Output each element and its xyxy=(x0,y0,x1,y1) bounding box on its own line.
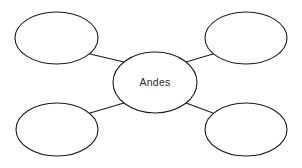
node-ellipse-top-right[interactable] xyxy=(205,12,287,64)
outer-node-bottom-left[interactable] xyxy=(16,103,98,156)
node-ellipse-top-left[interactable] xyxy=(15,12,98,64)
outer-node-bottom-right[interactable] xyxy=(205,103,287,156)
node-ellipse-bottom-left[interactable] xyxy=(16,103,98,156)
outer-node-top-right[interactable] xyxy=(205,12,287,64)
connector-center-to-top-left xyxy=(90,54,124,62)
node-label-center: Andes xyxy=(140,76,171,88)
connector-center-to-top-right xyxy=(186,54,213,62)
connector-center-to-bottom-right xyxy=(186,103,213,113)
center-node[interactable]: Andes xyxy=(113,52,197,113)
connector-center-to-bottom-left xyxy=(90,103,124,113)
concept-map-diagram: Andes xyxy=(0,0,302,168)
outer-node-top-left[interactable] xyxy=(15,12,98,64)
node-ellipse-bottom-right[interactable] xyxy=(205,103,287,156)
concept-map-canvas: Andes xyxy=(0,0,302,168)
